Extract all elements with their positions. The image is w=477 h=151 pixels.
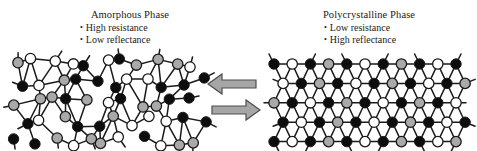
atom-dark [424, 117, 434, 127]
atom-dark [323, 98, 333, 108]
atom-dark [405, 78, 415, 88]
crystalline-bullet-0-label: Low resistance [330, 22, 390, 34]
atom-dark [72, 121, 82, 131]
atom-light [144, 111, 154, 121]
atom-gray [59, 75, 69, 85]
atom-gray [323, 136, 333, 146]
amorphous-bullet-list: • High resistance • Low reflectance [64, 22, 196, 46]
atom-dark [451, 59, 461, 69]
bullet-icon: • [324, 36, 327, 44]
amorphous-lattice [4, 52, 209, 151]
caption-crystalline: Polycrystalline Phase • Low resistance •… [296, 9, 442, 46]
atom-dark [378, 136, 388, 146]
atom-light [25, 53, 35, 63]
atom-light [33, 115, 43, 125]
atom-dark [305, 59, 315, 69]
arrow-group [206, 72, 262, 122]
atom-dark [269, 136, 279, 146]
atom-gray [138, 102, 148, 112]
atom-dark [30, 139, 40, 149]
atom-dark [378, 59, 388, 69]
atom-gray [131, 60, 141, 70]
atom-gray [174, 140, 184, 150]
atom-gray [387, 78, 397, 88]
atom-dark [442, 78, 452, 88]
atom-light [143, 74, 153, 84]
bullet-icon: • [80, 36, 83, 44]
atom-light [113, 132, 123, 142]
atom-gray [173, 59, 183, 69]
atom-light [296, 117, 306, 127]
list-item: • High resistance [80, 22, 196, 34]
atom-gray [95, 138, 105, 148]
atom-light [287, 136, 297, 146]
atom-dark [414, 136, 424, 146]
list-item: • High reflectance [324, 34, 442, 46]
caption-amorphous: Amorphous Phase • High resistance • Low … [64, 9, 196, 46]
atom-dark [111, 82, 121, 92]
amorphous-bullet-1-label: Low reflectance [86, 34, 151, 46]
atom-gray [396, 136, 406, 146]
atom-dark [70, 74, 80, 84]
atom-dark [296, 78, 306, 88]
atom-light [451, 98, 461, 108]
atom-light [34, 80, 44, 90]
list-item: • Low reflectance [80, 34, 196, 46]
bullet-icon: • [324, 24, 327, 32]
atom-light [185, 62, 195, 72]
atom-light [127, 120, 137, 130]
atom-gray [451, 136, 461, 146]
atom-gray [333, 117, 343, 127]
atom-gray [13, 57, 23, 67]
atom-light [442, 117, 452, 127]
atom-dark [184, 93, 194, 103]
atom-dark [351, 117, 361, 127]
atom-dark [360, 98, 370, 108]
crystalline-bullet-1-label: High reflectance [330, 34, 396, 46]
arrow-right-icon [212, 100, 260, 120]
bullet-icon: • [80, 24, 83, 32]
atom-gray [342, 98, 352, 108]
atom-light [305, 98, 315, 108]
atom-dark [460, 117, 470, 127]
atom-dark [278, 117, 288, 127]
phase-change-figure: Amorphous Phase • High resistance • Low … [0, 0, 477, 151]
atom-light [278, 78, 288, 88]
atom-light [351, 78, 361, 88]
atom-gray [269, 98, 279, 108]
atom-dark [178, 112, 188, 122]
atom-gray [151, 101, 161, 111]
atom-light [360, 136, 370, 146]
atom-light [433, 136, 443, 146]
atom-light [378, 98, 388, 108]
atom-dark [94, 121, 104, 131]
crystalline-title: Polycrystalline Phase [296, 9, 442, 21]
atom-dark [139, 131, 149, 141]
crystalline-bullet-list: • Low resistance • High reflectance [296, 22, 442, 46]
amorphous-bullet-0-label: High resistance [86, 22, 148, 34]
atom-dark [23, 119, 33, 129]
atom-dark [8, 134, 18, 144]
atom-gray [188, 138, 198, 148]
atom-dark [396, 98, 406, 108]
atom-light [50, 56, 60, 66]
atom-gray [153, 54, 163, 64]
atom-light [68, 59, 78, 69]
atom-light [369, 117, 379, 127]
atom-dark [414, 59, 424, 69]
atom-dark [342, 136, 352, 146]
atom-dark [269, 59, 279, 69]
atom-dark [156, 82, 166, 92]
atom-dark [314, 117, 324, 127]
atom-gray [460, 78, 470, 88]
atom-dark [287, 98, 297, 108]
atom-dark [433, 98, 443, 108]
atom-gray [47, 92, 57, 102]
atom-dark [78, 61, 88, 71]
atom-light [68, 140, 78, 150]
crystalline-lattice-svg [262, 52, 473, 151]
atom-gray [9, 100, 19, 110]
atom-gray [82, 95, 92, 105]
atom-light [287, 59, 297, 69]
atom-light [121, 74, 131, 84]
